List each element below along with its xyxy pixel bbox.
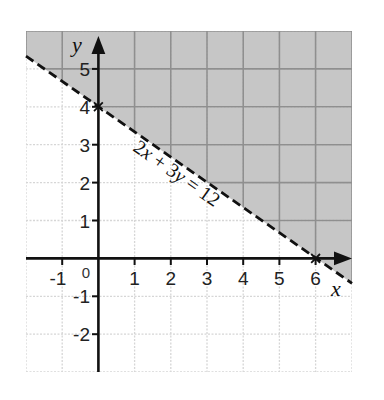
x-axis-label: x: [330, 276, 341, 301]
x-tick-2: 2: [166, 268, 177, 289]
y-tick-1: 1: [79, 211, 90, 232]
y-axis-label: y: [70, 32, 82, 57]
y-tick-5: 5: [79, 59, 90, 80]
inequality-graph: 5 4 3 2 1 -1 -2 -1 1 2 3 4 5 6 0 y x 2x …: [0, 0, 384, 400]
x-tick-4: 4: [238, 268, 249, 289]
y-tick-neg2: -2: [73, 324, 90, 345]
x-tick-neg1: -1: [50, 268, 67, 289]
y-tick-neg1: -1: [73, 286, 90, 307]
x-tick-5: 5: [274, 268, 285, 289]
x-tick-1: 1: [129, 268, 140, 289]
x-tick-3: 3: [202, 268, 213, 289]
y-tick-2: 2: [79, 173, 90, 194]
x-tick-6: 6: [310, 268, 321, 289]
y-tick-3: 3: [79, 135, 90, 156]
y-tick-4: 4: [79, 97, 90, 118]
origin-label: 0: [82, 264, 90, 281]
